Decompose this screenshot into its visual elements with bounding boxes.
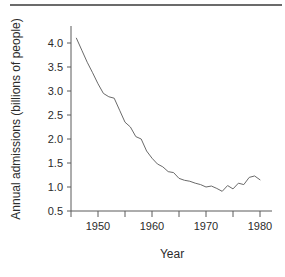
y-axis-title: Annual admissions (billions of people) <box>9 18 23 219</box>
data-series-line <box>76 38 260 191</box>
y-tick-label: 3.5 <box>48 61 63 73</box>
chart-figure: 4.0 3.5 3.0 2.5 2.0 1.5 1.0 0.5 1950 196… <box>0 0 285 277</box>
y-tick-label: 1.0 <box>48 181 63 193</box>
y-tick-label: 1.5 <box>48 157 63 169</box>
x-tick-label: 1970 <box>194 220 218 232</box>
y-axis-ticks <box>67 43 71 211</box>
y-axis-tick-labels: 4.0 3.5 3.0 2.5 2.0 1.5 1.0 0.5 <box>48 37 63 217</box>
y-tick-label: 3.0 <box>48 85 63 97</box>
y-tick-label: 4.0 <box>48 37 63 49</box>
x-axis-ticks <box>71 211 260 217</box>
y-tick-label: 2.0 <box>48 133 63 145</box>
line-chart-plot: 4.0 3.5 3.0 2.5 2.0 1.5 1.0 0.5 1950 196… <box>0 0 285 277</box>
x-tick-label: 1980 <box>248 220 272 232</box>
x-axis-tick-labels: 1950 1960 1970 1980 <box>86 220 272 232</box>
x-tick-label: 1950 <box>86 220 110 232</box>
x-axis-title: Year <box>160 247 184 261</box>
x-tick-label: 1960 <box>140 220 164 232</box>
y-tick-label: 2.5 <box>48 109 63 121</box>
y-tick-label: 0.5 <box>48 205 63 217</box>
